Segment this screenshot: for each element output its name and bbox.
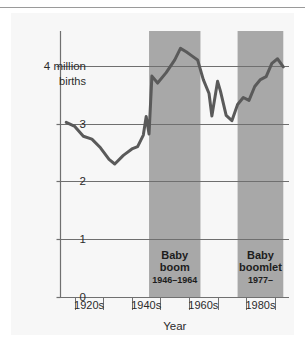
y-tick-label-1: 1 [80, 233, 86, 245]
baby-boom-band-line-2: boom [160, 261, 190, 273]
x-tick-label-1960s: 1960s [188, 299, 218, 311]
baby-boomlet-band-line-1: Baby [247, 249, 275, 261]
baby-boom-band-line-1: Baby [161, 249, 189, 261]
x-tick-label-1920s: 1920s [74, 299, 104, 311]
y-tick-label-4: 4 million [44, 60, 86, 72]
x-axis-title: Year [163, 320, 186, 332]
x-tick-label-1980s: 1980s [245, 299, 275, 311]
y-axis-unit-label: births [59, 75, 86, 87]
x-tick-label-1940s: 1940s [131, 299, 161, 311]
baby-boomlet-band-line-2: boomlet [239, 261, 282, 273]
births-line-chart: 01234 million births 1920s1940s1960s1980… [0, 0, 305, 363]
baby-boom-band-line-3: 1946–1964 [152, 275, 197, 285]
y-tick-label-2: 2 [80, 175, 86, 187]
baby-boomlet-band-line-3: 1977– [248, 275, 273, 285]
band-annotation-labels: Babyboom1946–1964Babyboomlet1977– [152, 249, 282, 285]
figure-container: 01234 million births 1920s1940s1960s1980… [0, 0, 305, 363]
x-axis-tick-labels: 1920s1940s1960s1980s [74, 299, 276, 311]
y-tick-label-3: 3 [80, 118, 86, 130]
